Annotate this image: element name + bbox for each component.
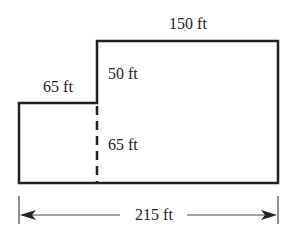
label-left-top-width: 65 ft [43, 78, 73, 95]
composite-shape-diagram: 150 ft 65 ft 50 ft 65 ft 215 ft [0, 0, 299, 239]
label-right-upper-height: 50 ft [108, 65, 138, 82]
shape-outline [19, 41, 278, 183]
label-right-top-width: 150 ft [169, 15, 207, 32]
label-total-width: 215 ft [135, 206, 173, 223]
label-dashed-height: 65 ft [108, 136, 138, 153]
